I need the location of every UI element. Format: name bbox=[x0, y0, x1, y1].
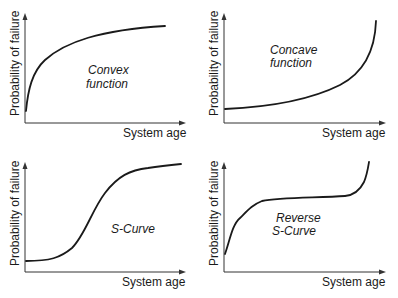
panel-s-curve: Probability of failure System age S-Curv… bbox=[8, 160, 186, 289]
s-curve bbox=[26, 164, 181, 261]
y-axis-label: Probability of failure bbox=[207, 160, 221, 266]
y-axis-label: Probability of failure bbox=[8, 10, 22, 116]
curve-label-line-2: function bbox=[270, 56, 312, 70]
curve-label-line-1: Reverse bbox=[276, 211, 321, 225]
curve-label-line-1: Convex bbox=[88, 63, 130, 77]
curve-label: S-Curve bbox=[111, 222, 155, 236]
panel-convex: Probability of failure System age Convex… bbox=[8, 10, 187, 140]
curve-label-line-2: function bbox=[86, 77, 128, 91]
x-axis-label: System age bbox=[322, 126, 386, 140]
x-axis-arrow-icon bbox=[379, 121, 386, 126]
x-axis-arrow-icon bbox=[379, 270, 386, 275]
y-axis-label: Probability of failure bbox=[207, 10, 221, 116]
curve-label-line-1: Concave bbox=[270, 43, 318, 57]
reverse-s-curve bbox=[225, 162, 369, 254]
x-axis-label: System age bbox=[322, 275, 386, 289]
x-axis-arrow-icon bbox=[179, 121, 186, 126]
panel-reverse-s-curve: Probability of failure System age Revers… bbox=[207, 160, 386, 289]
y-axis-arrow-icon bbox=[23, 13, 28, 20]
panel-concave: Probability of failure System age Concav… bbox=[207, 10, 386, 140]
failure-curves-diagram: Probability of failure System age Convex… bbox=[0, 0, 398, 298]
curve-label-line-2: S-Curve bbox=[272, 224, 316, 238]
y-axis-arrow-icon bbox=[23, 162, 28, 169]
y-axis-label: Probability of failure bbox=[8, 160, 22, 266]
x-axis-arrow-icon bbox=[179, 270, 186, 275]
x-axis-label: System age bbox=[123, 126, 187, 140]
y-axis-arrow-icon bbox=[222, 162, 227, 169]
y-axis-arrow-icon bbox=[222, 13, 227, 20]
x-axis-label: System age bbox=[122, 275, 186, 289]
